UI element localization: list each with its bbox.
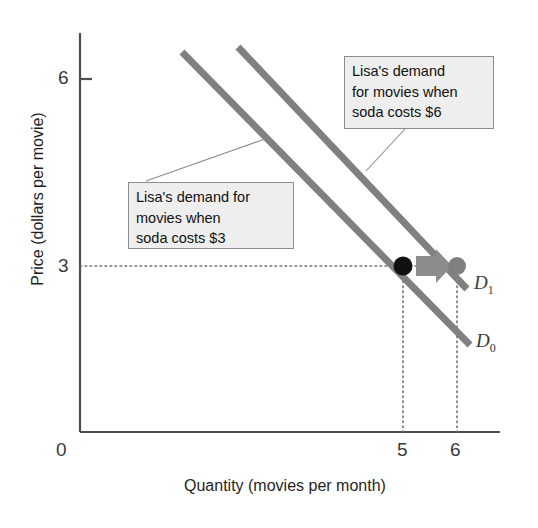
callout-soda6-line1: Lisa's demand bbox=[352, 61, 486, 82]
curve-label-d1-subscript: 1 bbox=[488, 283, 494, 297]
leader-line-soda3 bbox=[146, 139, 265, 181]
demand-shift-figure: 6 3 0 5 6 Quantity (movies per month) Pr… bbox=[0, 0, 538, 528]
y-tick-label-3: 3 bbox=[58, 256, 69, 275]
curve-label-d0-letter: D bbox=[476, 330, 490, 351]
curve-label-d0: D0 bbox=[476, 330, 496, 356]
x-tick-label-5: 5 bbox=[397, 440, 408, 459]
curve-label-d0-subscript: 0 bbox=[490, 341, 496, 355]
callout-soda6-line2: for movies when bbox=[352, 82, 486, 103]
leader-line-soda6 bbox=[366, 129, 405, 171]
callout-soda-costs-3: Lisa's demand for movies when soda costs… bbox=[128, 182, 294, 249]
callout-soda3-line2: movies when bbox=[136, 208, 286, 229]
curve-label-d1-letter: D bbox=[474, 272, 488, 293]
callout-soda6-line3: soda costs $6 bbox=[352, 102, 486, 123]
y-tick-label-6: 6 bbox=[58, 68, 69, 87]
x-tick-label-6: 6 bbox=[450, 440, 461, 459]
callout-soda3-line3: soda costs $3 bbox=[136, 228, 286, 249]
curve-label-d1: D1 bbox=[474, 272, 494, 298]
callout-soda-costs-6: Lisa's demand for movies when soda costs… bbox=[344, 56, 494, 129]
x-axis-title: Quantity (movies per month) bbox=[184, 477, 386, 495]
y-axis-title: Price (dollars per movie) bbox=[29, 89, 47, 309]
callout-soda3-line1: Lisa's demand for bbox=[136, 187, 286, 208]
origin-label: 0 bbox=[56, 440, 67, 459]
point-marker-q5-p3[interactable] bbox=[394, 257, 413, 276]
point-marker-q6-p3[interactable] bbox=[448, 257, 466, 275]
